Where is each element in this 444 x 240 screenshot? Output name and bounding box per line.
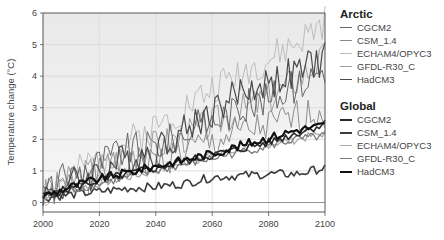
legend-group-arctic: Arctic CGCM2CSM_1.4ECHAM4/OPYC3GFDL-R30_… [340,8,444,86]
x-tick-label: 2000 [33,219,53,229]
legend-label: HadCM3 [357,74,395,85]
legend-label: ECHAM4/OPYC3 [357,48,431,59]
legend-swatch [340,132,352,134]
x-tick-label: 2020 [89,219,109,229]
legend-title-global: Global [340,100,444,112]
legend-swatch [340,171,352,173]
legend-label: ECHAM4/OPYC3 [357,140,431,151]
legend-label: GFDL-R30_C [357,61,415,72]
legend-item: HadCM3 [340,165,444,178]
legend-item: CSM_1.4 [340,34,444,47]
y-tick-label: 0 [32,198,37,208]
legend-swatch [340,27,352,28]
legend-label: CGCM2 [357,22,391,33]
x-tick-label: 2040 [146,219,166,229]
legend-label: HadCM3 [357,166,395,177]
y-axis-label: Temperature change (°C) [5,59,16,166]
legend-group-global: Global CGCM2CSM_1.4ECHAM4/OPYC3GFDL-R30_… [340,100,444,178]
legend-label: CGCM2 [357,114,391,125]
x-tick-label: 2060 [202,219,222,229]
legend-swatch [340,40,352,41]
y-tick-label: 1 [32,166,37,176]
y-tick-label: 6 [32,8,37,18]
legend-swatch [340,53,352,54]
x-tick-label: 2100 [315,219,335,229]
y-tick-label: 3 [32,103,37,113]
x-axis: 200020202040206020802100 [33,212,335,229]
legend-swatch [340,119,352,121]
y-tick-label: 2 [32,134,37,144]
legend-item: GFDL-R30_C [340,60,444,73]
legend-item: ECHAM4/OPYC3 [340,47,444,60]
legend-label: CSM_1.4 [357,35,397,46]
legend-item: CSM_1.4 [340,126,444,139]
y-axis: 0123456 [32,8,43,208]
chart-figure: 0123456 200020202040206020802100 Tempera… [0,0,444,240]
legend-swatch [340,79,352,80]
legend-label: GFDL-R30_C [357,153,415,164]
legend-label: CSM_1.4 [357,127,397,138]
legend-title-arctic: Arctic [340,8,444,20]
legend-swatch [340,145,352,146]
legend-swatch [340,158,352,159]
x-tick-label: 2080 [259,219,279,229]
y-tick-label: 4 [32,71,37,81]
legend-item: CGCM2 [340,113,444,126]
y-tick-label: 5 [32,40,37,50]
legend-swatch [340,66,352,67]
legend-item: GFDL-R30_C [340,152,444,165]
legend: Arctic CGCM2CSM_1.4ECHAM4/OPYC3GFDL-R30_… [340,8,444,192]
legend-item: HadCM3 [340,73,444,86]
legend-item: ECHAM4/OPYC3 [340,139,444,152]
legend-item: CGCM2 [340,21,444,34]
